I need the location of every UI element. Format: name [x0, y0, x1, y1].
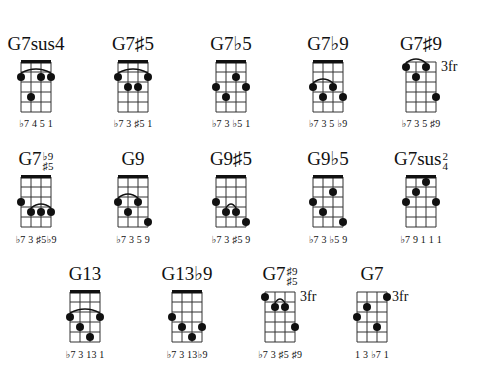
- fret-position-label: 3fr: [441, 59, 457, 75]
- chord-intervals: ♭7 3 ♭5 9: [283, 234, 373, 245]
- finger-dot: [261, 293, 269, 301]
- finger-dot: [76, 323, 84, 331]
- fret-position-label: 3fr: [300, 289, 316, 305]
- chord-intervals: ♭7 3 ♭5 1: [186, 118, 276, 129]
- fretboard-diagram: [211, 172, 251, 232]
- fretboard-diagram: [401, 57, 441, 117]
- fretboard-diagram: [308, 172, 348, 232]
- chord-intervals: ♭7 3 ♯5♭9: [0, 234, 81, 245]
- finger-dot: [17, 198, 25, 206]
- fretboard-diagram: [16, 57, 56, 117]
- fretboard-diagram: [401, 172, 441, 232]
- chord-title: G7: [327, 264, 417, 284]
- chord-intervals: ♭7 3 ♯5 1: [88, 118, 178, 129]
- chord-title: G7♯9♯5: [235, 264, 325, 286]
- nut: [21, 60, 51, 64]
- finger-dot: [168, 313, 176, 321]
- finger-dot: [309, 198, 317, 206]
- chord-intervals: 1 3 ♭7 1: [327, 349, 417, 360]
- finger-dot: [212, 83, 220, 91]
- nut: [118, 175, 148, 179]
- finger-dot: [232, 73, 240, 81]
- finger-dot: [383, 293, 391, 301]
- nut: [406, 175, 436, 179]
- chord-intervals: ♭7 3 5 ♭9: [283, 118, 373, 129]
- chord-title: G9♭5: [283, 149, 373, 169]
- nut: [172, 290, 202, 294]
- finger-dot: [222, 208, 230, 216]
- chord-title: G13♭9: [142, 264, 232, 284]
- chord-intervals: ♭7 3 ♯5 ♯9: [235, 349, 325, 360]
- finger-dot: [96, 313, 104, 321]
- finger-dot: [319, 93, 327, 101]
- chord-intervals: ♭7 3 ♯5 9: [186, 234, 276, 245]
- finger-dot: [232, 208, 240, 216]
- finger-dot: [124, 208, 132, 216]
- chord-intervals: ♭7 3 13 1: [40, 349, 130, 360]
- fretboard-diagram: [352, 287, 392, 347]
- finger-dot: [144, 73, 152, 81]
- fretboard-diagram: [113, 57, 153, 117]
- chord-title: G9♯5: [186, 149, 276, 169]
- chord-intervals: ♭7 3 5 ♯9: [376, 118, 466, 129]
- nut: [118, 60, 148, 64]
- finger-dot: [242, 83, 250, 91]
- finger-dot: [402, 198, 410, 206]
- finger-dot: [17, 73, 25, 81]
- finger-dot: [291, 323, 299, 331]
- chord-title: G7♭5: [186, 34, 276, 54]
- chord-intervals: ♭7 9 1 1 1: [376, 234, 466, 245]
- chord-title: G7♯9: [376, 34, 466, 54]
- finger-dot: [402, 63, 410, 71]
- finger-dot: [319, 208, 327, 216]
- finger-dot: [309, 83, 317, 91]
- finger-dot: [363, 303, 371, 311]
- fretboard-diagram: [211, 57, 251, 117]
- finger-dot: [339, 218, 347, 226]
- finger-dot: [124, 83, 132, 91]
- finger-dot: [432, 198, 440, 206]
- finger-dot: [27, 208, 35, 216]
- chord-intervals: ♭7 3 5 9: [88, 234, 178, 245]
- fretboard-diagram: [16, 172, 56, 232]
- finger-dot: [144, 218, 152, 226]
- nut: [313, 175, 343, 179]
- finger-dot: [271, 303, 279, 311]
- chord-title: G7♭9♯5: [0, 149, 81, 171]
- finger-dot: [281, 303, 289, 311]
- finger-dot: [86, 333, 94, 341]
- fretboard-diagram: [260, 287, 300, 347]
- chord-intervals: ♭7 3 13♭9: [142, 349, 232, 360]
- chord-intervals: ♭7 4 5 1: [0, 118, 81, 129]
- chord-title: G7sus24: [376, 149, 466, 171]
- finger-dot: [339, 93, 347, 101]
- finger-dot: [47, 73, 55, 81]
- finger-dot: [222, 93, 230, 101]
- finger-dot: [198, 323, 206, 331]
- finger-dot: [373, 323, 381, 331]
- finger-dot: [432, 93, 440, 101]
- finger-dot: [188, 333, 196, 341]
- fretboard-diagram: [167, 287, 207, 347]
- fretboard-diagram: [113, 172, 153, 232]
- finger-dot: [212, 198, 220, 206]
- finger-dot: [422, 178, 430, 186]
- finger-dot: [114, 198, 122, 206]
- chord-title: G9: [88, 149, 178, 169]
- finger-dot: [66, 313, 74, 321]
- finger-dot: [114, 73, 122, 81]
- nut: [313, 60, 343, 64]
- fretboard-diagram: [308, 57, 348, 117]
- finger-dot: [353, 313, 361, 321]
- finger-dot: [329, 188, 337, 196]
- finger-dot: [37, 208, 45, 216]
- nut: [216, 60, 246, 64]
- finger-dot: [134, 198, 142, 206]
- finger-dot: [412, 188, 420, 196]
- finger-dot: [37, 73, 45, 81]
- chord-title: G13: [40, 264, 130, 284]
- finger-dot: [47, 208, 55, 216]
- finger-dot: [329, 83, 337, 91]
- chord-title: G7♯5: [88, 34, 178, 54]
- finger-dot: [422, 63, 430, 71]
